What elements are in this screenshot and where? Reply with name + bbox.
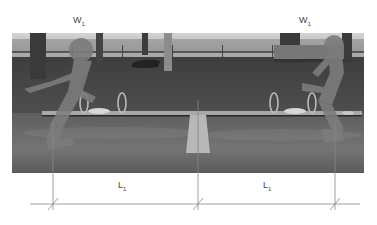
- length-label-left: L1: [118, 180, 126, 192]
- seesaw-photo: [12, 33, 364, 173]
- length-label-left-sub: 1: [123, 186, 126, 192]
- dimension-tick-center: [193, 198, 203, 210]
- length-label-right-sub: 1: [268, 186, 271, 192]
- dimension-tick-left: [48, 198, 58, 210]
- weight-label-right-main: W: [299, 15, 308, 25]
- photo-illustration: [12, 33, 364, 173]
- length-label-right: L1: [263, 180, 271, 192]
- weight-label-left: W1: [73, 15, 85, 27]
- weight-label-right-sub: 1: [308, 21, 311, 27]
- weight-label-right: W1: [299, 15, 311, 27]
- weight-label-left-main: W: [73, 15, 82, 25]
- weight-label-left-sub: 1: [82, 21, 85, 27]
- dimension-tick-right: [330, 198, 340, 210]
